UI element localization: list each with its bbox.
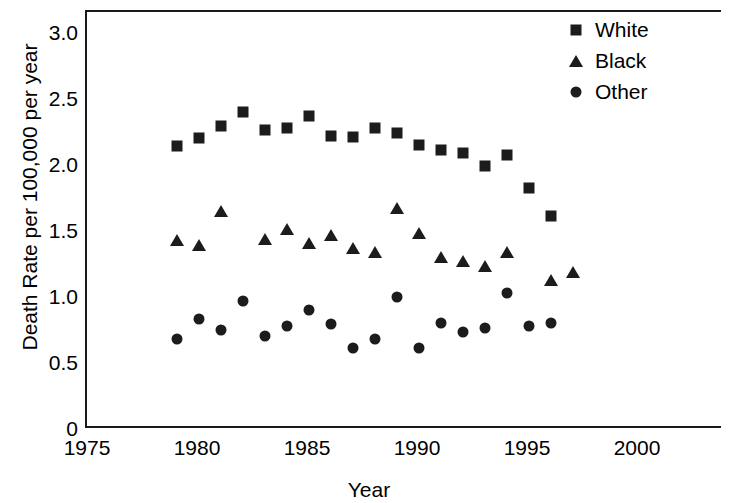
data-point-black [566, 266, 580, 278]
data-point-other [370, 333, 381, 344]
death-rate-scatter-chart: 00.51.01.52.02.53.0 Death Rate per 100,0… [0, 0, 738, 503]
data-point-white [216, 121, 227, 132]
data-point-white [260, 125, 271, 136]
data-point-black [434, 251, 448, 263]
data-point-white [348, 131, 359, 142]
data-point-black [302, 237, 316, 249]
data-point-white [282, 122, 293, 133]
data-point-other [172, 333, 183, 344]
x-axis-title-text: Year [348, 478, 390, 502]
data-point-black [368, 246, 382, 258]
y-axis-tick-label: 1.5 [49, 220, 78, 241]
data-point-black [500, 246, 514, 258]
y-axis-tick-label: 2.0 [49, 154, 78, 175]
x-axis-tick-label: 1990 [394, 437, 441, 458]
y-axis-title-text: Death Rate per 100,000 per year [18, 43, 41, 350]
data-point-white [546, 211, 557, 222]
data-point-other [216, 324, 227, 335]
data-point-black [390, 202, 404, 214]
data-point-black [478, 260, 492, 272]
data-point-white [370, 122, 381, 133]
data-point-black [170, 234, 184, 246]
data-point-other [502, 287, 513, 298]
data-point-white [458, 147, 469, 158]
data-point-other [414, 343, 425, 354]
y-axis-tick-label: 3.0 [49, 22, 78, 43]
x-axis-tick-labels: 197519801985199019952000 [0, 437, 738, 467]
legend-item-label: Other [595, 81, 648, 102]
y-axis-tick-label: 1.0 [49, 286, 78, 307]
data-point-other [458, 327, 469, 338]
data-point-white [392, 128, 403, 139]
legend-item-label: Black [595, 50, 646, 71]
data-point-white [326, 130, 337, 141]
data-point-black [346, 242, 360, 254]
y-axis-tick-label: 2.5 [49, 88, 78, 109]
data-point-white [480, 161, 491, 172]
x-axis-tick-label: 1975 [64, 437, 111, 458]
data-point-white [436, 145, 447, 156]
data-point-other [194, 314, 205, 325]
data-point-black [280, 223, 294, 235]
data-point-other [326, 319, 337, 330]
data-point-black [456, 255, 470, 267]
data-point-white [194, 133, 205, 144]
legend-item-label: White [595, 19, 649, 40]
data-point-white [524, 183, 535, 194]
x-axis-tick-label: 2000 [614, 437, 661, 458]
x-axis-tick-label: 1995 [504, 437, 551, 458]
data-point-black [544, 274, 558, 286]
data-point-white [502, 150, 513, 161]
data-point-black [412, 227, 426, 239]
x-axis-tick-label: 1985 [284, 437, 331, 458]
data-point-other [260, 331, 271, 342]
data-point-other [304, 304, 315, 315]
data-point-other [546, 318, 557, 329]
legend-item-other: Other [565, 76, 715, 107]
data-point-other [392, 291, 403, 302]
triangle-marker-icon [565, 50, 587, 72]
legend-item-white: White [565, 14, 715, 45]
x-axis-tick-label: 1980 [174, 437, 221, 458]
data-point-other [282, 320, 293, 331]
y-axis-title: Death Rate per 100,000 per year [18, 0, 42, 412]
data-point-other [238, 295, 249, 306]
y-axis-tick-label: 0.5 [49, 352, 78, 373]
data-point-other [436, 318, 447, 329]
chart-legend: WhiteBlackOther [565, 14, 715, 107]
square-marker-icon [565, 19, 587, 41]
data-point-black [214, 205, 228, 217]
data-point-white [238, 106, 249, 117]
data-point-black [324, 229, 338, 241]
legend-item-black: Black [565, 45, 715, 76]
data-point-black [192, 239, 206, 251]
data-point-other [480, 323, 491, 334]
data-point-black [258, 233, 272, 245]
data-point-other [524, 320, 535, 331]
data-point-other [348, 343, 359, 354]
x-axis-title: Year [0, 478, 738, 502]
data-point-white [172, 141, 183, 152]
circle-marker-icon [565, 81, 587, 103]
data-point-white [414, 139, 425, 150]
data-point-white [304, 110, 315, 121]
